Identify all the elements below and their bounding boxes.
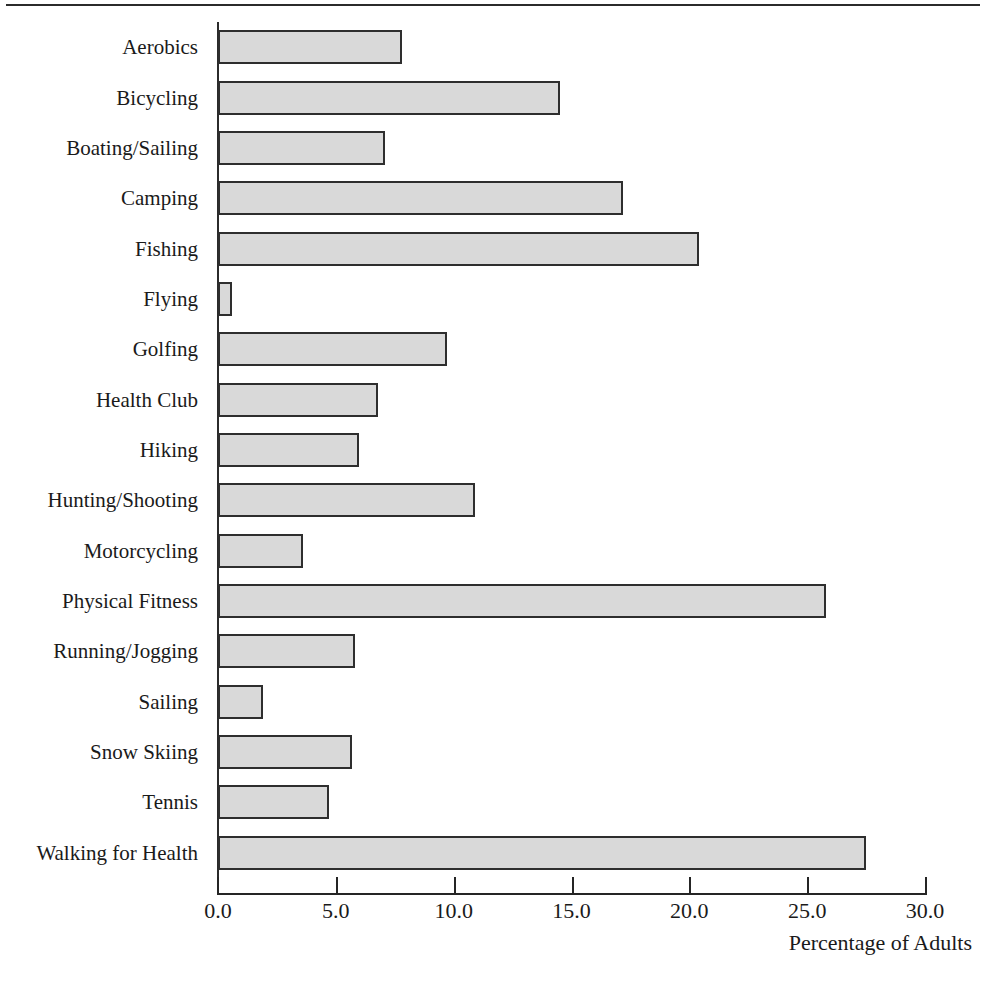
x-axis-end-cap bbox=[217, 877, 219, 895]
category-label: Camping bbox=[0, 187, 206, 209]
category-label: Sailing bbox=[0, 691, 206, 713]
category-label: Hunting/Shooting bbox=[0, 489, 206, 511]
bar bbox=[218, 232, 699, 266]
x-axis-tick-label: 0.0 bbox=[178, 898, 258, 924]
bar bbox=[218, 584, 826, 618]
bar bbox=[218, 634, 355, 668]
bar bbox=[218, 383, 378, 417]
plot-area: AerobicsBicyclingBoating/SailingCampingF… bbox=[0, 0, 986, 999]
category-label: Running/Jogging bbox=[0, 640, 206, 662]
x-axis-tick-label: 20.0 bbox=[649, 898, 729, 924]
category-label: Aerobics bbox=[0, 36, 206, 58]
category-axis-labels: AerobicsBicyclingBoating/SailingCampingF… bbox=[0, 22, 206, 878]
bar bbox=[218, 181, 623, 215]
bar bbox=[218, 685, 263, 719]
bar bbox=[218, 534, 303, 568]
category-label: Golfing bbox=[0, 338, 206, 360]
category-label: Fishing bbox=[0, 238, 206, 260]
x-axis-tick-label: 5.0 bbox=[296, 898, 376, 924]
category-label: Health Club bbox=[0, 389, 206, 411]
bar bbox=[218, 30, 402, 64]
bar bbox=[218, 735, 352, 769]
x-axis-end-cap bbox=[925, 877, 927, 895]
category-label: Flying bbox=[0, 288, 206, 310]
bar bbox=[218, 81, 560, 115]
category-label: Boating/Sailing bbox=[0, 137, 206, 159]
x-axis-tick bbox=[689, 877, 691, 894]
bar bbox=[218, 836, 866, 870]
x-axis-tick bbox=[454, 877, 456, 894]
bar-chart-figure: AerobicsBicyclingBoating/SailingCampingF… bbox=[0, 0, 986, 999]
x-axis-tick-label: 25.0 bbox=[767, 898, 847, 924]
x-axis-tick bbox=[336, 877, 338, 894]
bar bbox=[218, 483, 475, 517]
bar bbox=[218, 282, 232, 316]
category-label: Tennis bbox=[0, 791, 206, 813]
bar bbox=[218, 433, 359, 467]
category-label: Motorcycling bbox=[0, 540, 206, 562]
x-axis-tick-label: 15.0 bbox=[532, 898, 612, 924]
category-label: Snow Skiing bbox=[0, 741, 206, 763]
x-axis-tick bbox=[572, 877, 574, 894]
x-axis-tick bbox=[807, 877, 809, 894]
category-label: Hiking bbox=[0, 439, 206, 461]
bars-container bbox=[218, 22, 928, 878]
x-axis-tick-label: 10.0 bbox=[414, 898, 494, 924]
bar bbox=[218, 131, 385, 165]
category-label: Physical Fitness bbox=[0, 590, 206, 612]
x-axis-title: Percentage of Adults bbox=[789, 930, 972, 956]
category-label: Bicycling bbox=[0, 87, 206, 109]
category-label: Walking for Health bbox=[0, 842, 206, 864]
x-axis-tick-label: 30.0 bbox=[885, 898, 965, 924]
bar bbox=[218, 332, 447, 366]
bar bbox=[218, 785, 329, 819]
